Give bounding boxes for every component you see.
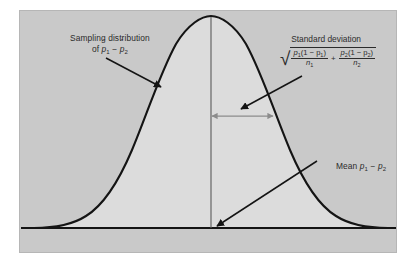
- term2-denominator: n2: [353, 59, 360, 68]
- figure-panel: Sampling distribution of ̂p1 − ̂p2 Stand…: [19, 10, 397, 253]
- fraction-term-2: p2(1 − p2) n2: [339, 49, 376, 69]
- formula-plus-operator: +: [331, 54, 336, 63]
- standard-deviation-formula: √ p1(1 − p1) n1 + p2(1 − p2) n2: [280, 47, 376, 69]
- fraction-term-1: p1(1 − p1) n1: [291, 49, 328, 69]
- standard-deviation-annotation: Standard deviation √ p1(1 − p1) n1 + p2(…: [278, 28, 374, 69]
- p1-hat: ̂p: [102, 44, 107, 55]
- sampling-label-arrow: [106, 58, 161, 87]
- distribution-figure: Sampling distribution of ̂p1 − ̂p2 Stand…: [0, 0, 415, 270]
- standard-deviation-title: Standard deviation: [289, 34, 363, 45]
- radical-vinculum: p1(1 − p1) n1 + p2(1 − p2) n2: [290, 47, 376, 69]
- sampling-label-line1: Sampling distribution: [70, 33, 150, 43]
- radical-icon: √: [280, 49, 290, 68]
- sampling-label-line2: of ̂p1 − ̂p2: [70, 44, 150, 56]
- term1-denominator: n1: [306, 59, 313, 68]
- sampling-distribution-label: Sampling distribution of ̂p1 − ̂p2: [70, 33, 150, 56]
- mean-label: Mean p1 − p2: [336, 162, 386, 172]
- p2-hat: ̂p: [120, 44, 125, 55]
